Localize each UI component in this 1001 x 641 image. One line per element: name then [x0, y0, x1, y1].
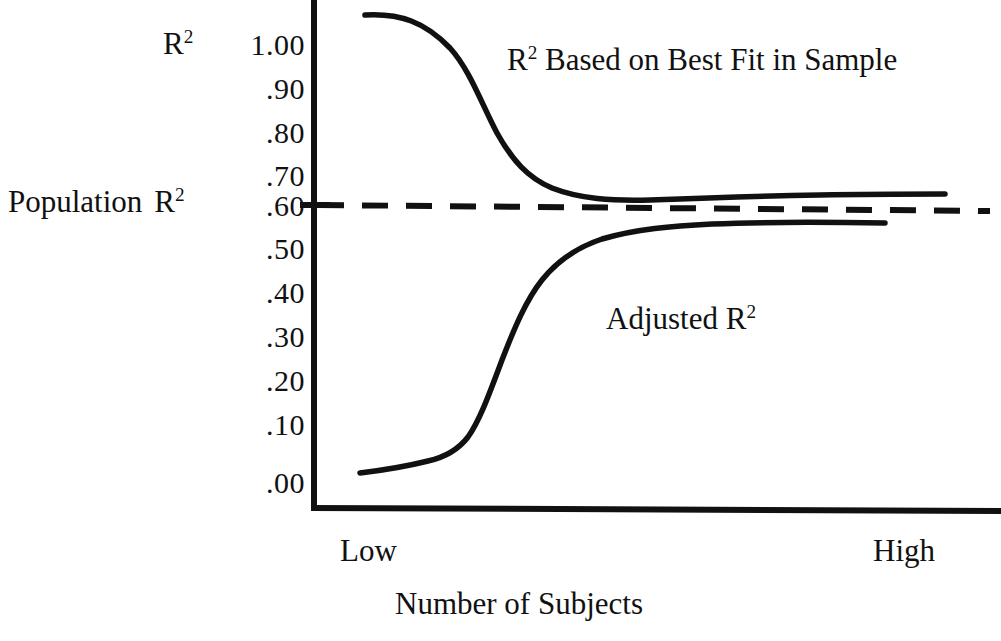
- x-tick-label-high: High: [873, 535, 935, 566]
- y-tick-label-1-00: 1.00: [251, 30, 306, 60]
- best-fit-series-label: R2 Based on Best Fit in Sample: [507, 44, 897, 75]
- y-tick-label-0-90: .90: [266, 74, 305, 104]
- y-tick-label-0-30: .30: [266, 322, 305, 352]
- y-tick-label-0-10: .10: [266, 410, 305, 440]
- y-tick-label-0-20: .20: [266, 366, 305, 396]
- population-r2-label: PopulationR2: [8, 186, 185, 217]
- y-axis-title-superscript: 2: [184, 26, 194, 47]
- adjusted-label-symbol: R: [726, 301, 747, 336]
- figure-container: 1.00 .90 .80 .70 .60 .50 .40 .30 .20 .10…: [0, 0, 1001, 641]
- y-tick-label-0-40: .40: [266, 278, 305, 308]
- x-axis-title: Number of Subjects: [395, 588, 643, 619]
- adjusted-label-text: Adjusted: [606, 301, 718, 336]
- y-tick-label-0-00: .00: [266, 468, 305, 498]
- y-axis-title: R2: [163, 28, 193, 59]
- x-axis-line: [311, 508, 1001, 511]
- population-r2-label-symbol: R: [154, 184, 175, 219]
- population-reference-line: [318, 205, 990, 211]
- population-r2-label-superscript: 2: [175, 184, 185, 205]
- best-fit-label-superscript: 2: [528, 42, 538, 63]
- adjusted-series-label: Adjusted R2: [606, 303, 756, 334]
- x-tick-label-low: Low: [340, 535, 397, 566]
- chart-plot-area: [0, 0, 1001, 641]
- best-fit-label-text: Based on Best Fit in Sample: [545, 42, 897, 77]
- best-fit-label-symbol: R: [507, 42, 528, 77]
- y-tick-label-0-60: .60: [266, 191, 305, 221]
- adjusted-label-superscript: 2: [746, 301, 756, 322]
- curve-adjusted-r2: [360, 222, 885, 473]
- population-r2-label-text: Population: [8, 184, 142, 219]
- y-axis-title-symbol: R: [163, 26, 184, 61]
- y-tick-label-0-70: .70: [266, 161, 305, 191]
- y-tick-label-0-80: .80: [266, 118, 305, 148]
- y-tick-label-0-50: .50: [266, 234, 305, 264]
